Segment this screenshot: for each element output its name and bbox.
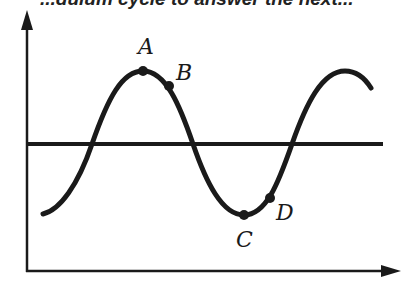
point-a-marker: [138, 66, 148, 76]
point-d-label: D: [275, 200, 294, 225]
point-c-marker: [239, 210, 249, 220]
y-axis: [21, 10, 33, 272]
x-axis: [26, 265, 401, 277]
y-axis-arrow-icon: [21, 10, 33, 30]
point-c-label: C: [236, 227, 253, 252]
point-b-marker: [164, 81, 174, 91]
point-a-label: A: [136, 34, 154, 59]
x-axis-arrow-icon: [381, 265, 401, 277]
point-b-label: B: [175, 60, 192, 85]
point-d-marker: [265, 193, 275, 203]
wave-diagram: A B C D: [0, 0, 404, 285]
